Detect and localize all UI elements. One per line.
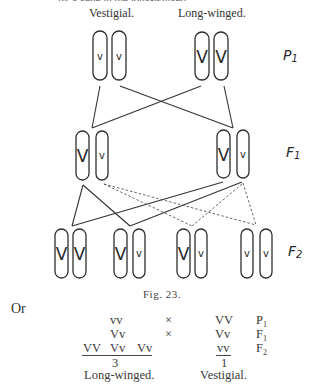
f2-chromosomes: V V V v V v v v: [55, 229, 272, 278]
gen-letter: P: [256, 313, 263, 327]
f2-generation: F2: [256, 341, 267, 357]
f1-left-genotype: Vv: [110, 327, 125, 342]
generation-label-f2: F2: [288, 243, 302, 260]
chromosome: v: [195, 229, 207, 278]
gene-label: v: [116, 51, 122, 62]
gene-label: V: [215, 47, 227, 67]
gen-subscript: 2: [263, 348, 267, 357]
gene-label: V: [196, 47, 208, 67]
or-label: Or: [11, 301, 26, 317]
f2-recessive-genotype: vv: [217, 341, 230, 356]
gen-letter: F: [256, 341, 263, 355]
f1-to-f2-solid-lines: [72, 182, 242, 226]
generation-label-p1: P1: [283, 47, 298, 64]
p1-right-genotype: VV: [215, 313, 233, 328]
chromosome: V: [55, 229, 68, 278]
svg-text:F2: F2: [288, 243, 302, 260]
gene-label: v: [244, 248, 250, 259]
chromosome: v: [133, 229, 145, 278]
svg-text:F1: F1: [286, 144, 300, 161]
gene-label: v: [136, 248, 142, 259]
chromosome: v: [93, 31, 107, 80]
cross-symbol: ×: [165, 327, 172, 342]
chromosome: v: [112, 31, 126, 80]
gene-label: v: [198, 248, 204, 259]
gene-label: V: [178, 244, 190, 264]
f1-right-genotype: Vv: [215, 327, 230, 342]
chromosome: V: [177, 229, 190, 278]
chromosome: V: [73, 229, 86, 278]
inheritance-diagram: v v V V V v V v: [0, 0, 318, 290]
gene-label: V: [56, 244, 68, 264]
p1-chromosomes: v v V V: [93, 31, 228, 80]
p1-to-f1-lines: [92, 86, 233, 128]
f1-chromosomes: V v V v: [76, 130, 249, 180]
gene-label: V: [77, 146, 89, 166]
f2-genotype-2: Vv: [110, 341, 125, 356]
f2-genotype-1: VV: [83, 341, 101, 356]
gen-letter: F: [256, 327, 263, 341]
chromosome: v: [241, 229, 253, 278]
chromosome: V: [217, 130, 230, 178]
generation-label-f1: F1: [286, 144, 300, 161]
f1-to-f2-dashed-lines: [104, 183, 256, 226]
gene-label: v: [99, 150, 105, 161]
chromosome: v: [96, 131, 108, 180]
long-winged-result: Long-winged.: [84, 368, 154, 383]
chromosome: V: [214, 32, 228, 80]
gene-label: v: [97, 51, 103, 62]
p1-left-genotype: vv: [110, 313, 123, 328]
gene-label: v: [263, 248, 269, 259]
gene-label: v: [240, 149, 246, 160]
gene-label: V: [74, 244, 86, 264]
gene-label: V: [115, 244, 127, 264]
gene-label: V: [218, 145, 230, 165]
figure-caption: Fig. 23.: [143, 288, 181, 300]
svg-text:P1: P1: [283, 47, 298, 64]
f2-genotype-3: Vv: [137, 341, 152, 356]
chromosome: V: [195, 32, 209, 80]
vestigial-result: Vestigial.: [200, 368, 247, 383]
chromosome: v: [260, 229, 272, 278]
cross-symbol: ×: [165, 313, 172, 328]
chromosome: V: [76, 131, 89, 180]
chromosome: v: [237, 130, 249, 178]
chromosome: V: [114, 229, 127, 278]
